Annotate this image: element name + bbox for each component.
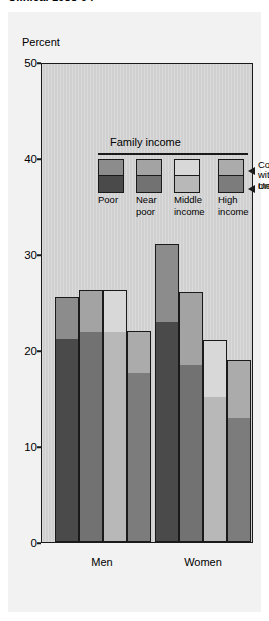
- legend-swatch-high-income: [218, 159, 244, 193]
- legend-title: Family income: [110, 136, 181, 148]
- bar-men-middle-income-controlled: [104, 291, 126, 334]
- legend-callout-controlled-line1: Controlled with: [258, 160, 269, 179]
- bar-women-middle-income-uncontrolled: [204, 397, 226, 541]
- bar-men-middle-income-uncontrolled: [104, 332, 126, 541]
- bar-men-high-income[interactable]: [127, 331, 151, 542]
- legend-callout-uncontrolled: Uncontrolled: [258, 181, 269, 191]
- legend-label-near-poor-line2: poor: [136, 207, 176, 217]
- bar-men-near-poor[interactable]: [79, 290, 103, 542]
- legend-swatch-poor-controlled: [99, 160, 123, 176]
- bar-women-middle-income[interactable]: [203, 340, 227, 542]
- y-axis-ticks: 50 40 30 20 10 0: [0, 63, 37, 543]
- x-axis-label-men: Men: [91, 556, 112, 568]
- callout-arrow-controlled-icon: [248, 167, 255, 175]
- legend-swatch-middle-income-controlled: [175, 160, 199, 176]
- bar-women-poor-controlled: [156, 245, 178, 324]
- legend-item-near-poor[interactable]: Near poor: [136, 159, 162, 216]
- legend-swatch-middle-income-uncontrolled: [175, 176, 199, 192]
- y-tick-label-10: 10: [3, 441, 37, 453]
- legend-label-middle-income-line2: income: [174, 207, 214, 217]
- legend-swatch-poor-uncontrolled: [99, 176, 123, 192]
- bar-women-near-poor-uncontrolled: [180, 365, 202, 541]
- bar-men-high-income-controlled: [128, 332, 150, 375]
- y-axis-title: Percent: [22, 36, 60, 48]
- bar-women-poor-uncontrolled: [156, 322, 178, 541]
- legend-swatch-poor: [98, 159, 124, 193]
- legend-rule: [98, 153, 248, 155]
- bar-men-poor[interactable]: [55, 297, 79, 542]
- y-tick-label-30: 30: [3, 249, 37, 261]
- legend-label-high-income-line2: income: [218, 207, 258, 217]
- bar-men-poor-controlled: [56, 298, 78, 341]
- legend-item-poor[interactable]: Poor: [98, 159, 124, 207]
- legend-swatch-near-poor: [136, 159, 162, 193]
- legend-swatch-middle-income: [174, 159, 200, 193]
- bar-women-poor[interactable]: [155, 244, 179, 542]
- bar-women-near-poor[interactable]: [179, 292, 203, 542]
- legend-label-poor-line1: Poor: [98, 195, 138, 205]
- running-head: Clinical 1988-94: [8, 0, 94, 3]
- bar-men-poor-uncontrolled: [56, 339, 78, 541]
- legend-item-high-income[interactable]: High income: [218, 159, 244, 216]
- y-tick-label-40: 40: [3, 153, 37, 165]
- legend-label-high-income-line1: High: [218, 195, 258, 205]
- legend-callout-uncontrolled-line1: Uncontrolled: [258, 181, 269, 191]
- chart-legend: Family income Poor Near poor: [94, 136, 269, 214]
- bar-women-near-poor-controlled: [180, 293, 202, 367]
- bar-men-middle-income[interactable]: [103, 290, 127, 542]
- bar-women-middle-income-controlled: [204, 341, 226, 399]
- bar-men-high-income-uncontrolled: [128, 373, 150, 541]
- legend-item-middle-income[interactable]: Middle income: [174, 159, 200, 216]
- bar-men-near-poor-controlled: [80, 291, 102, 334]
- legend-swatch-high-income-controlled: [219, 160, 243, 176]
- x-axis-label-women: Women: [184, 556, 222, 568]
- y-tick-label-20: 20: [3, 345, 37, 357]
- y-tick-label-50: 50: [3, 57, 37, 69]
- plot-area: Family income Poor Near poor: [41, 63, 253, 543]
- legend-label-near-poor-line1: Near: [136, 195, 176, 205]
- bar-women-high-income-uncontrolled: [228, 418, 250, 541]
- legend-label-middle-income-line1: Middle: [174, 195, 214, 205]
- bar-women-high-income[interactable]: [227, 360, 251, 542]
- legend-swatch-near-poor-controlled: [137, 160, 161, 176]
- legend-swatch-near-poor-uncontrolled: [137, 176, 161, 192]
- bar-men-near-poor-uncontrolled: [80, 332, 102, 541]
- callout-arrow-uncontrolled-icon: [248, 185, 255, 193]
- chart-figure: Clinical 1988-94 Percent 50 40 30 20 10 …: [0, 0, 269, 621]
- bar-women-high-income-controlled: [228, 361, 250, 420]
- y-tick-label-0: 0: [3, 537, 37, 549]
- legend-swatch-high-income-uncontrolled: [219, 176, 243, 192]
